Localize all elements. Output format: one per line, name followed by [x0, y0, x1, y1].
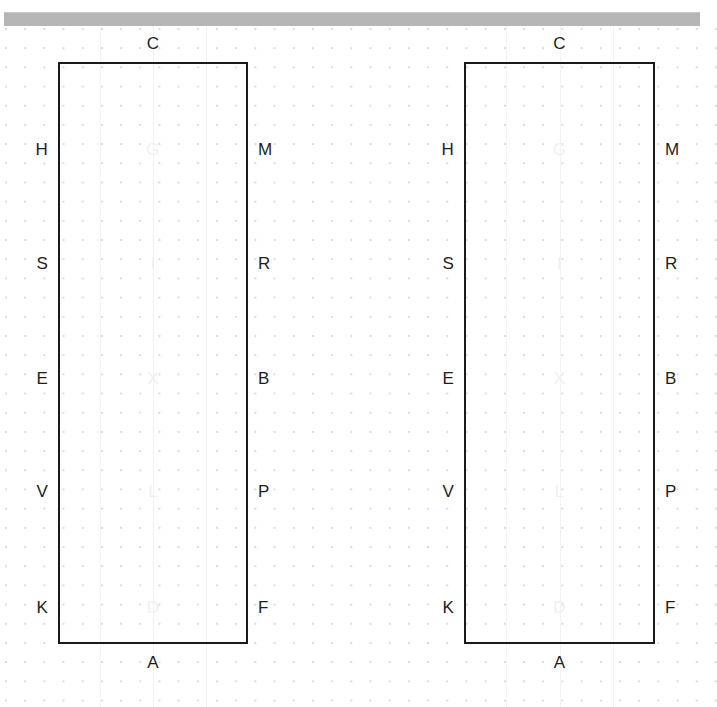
rectangle-left-inner-label-3: L — [148, 483, 158, 500]
rectangle-right-right-label-1: R — [665, 255, 677, 272]
rectangle-left-right-label-2: B — [258, 370, 270, 387]
rectangle-right-inner-label-3: L — [555, 483, 565, 500]
rectangle-left-right-label-4: F — [258, 599, 269, 616]
rectangle-left-inner-label-1: I — [151, 255, 156, 272]
rectangle-left-top-label: C — [147, 35, 159, 52]
chrome-top-edge — [0, 0, 717, 5]
rectangle-left-right-label-0: M — [258, 141, 272, 158]
rectangle-left-left-label-0: H — [36, 141, 48, 158]
rectangle-left-left-label-1: S — [36, 255, 48, 272]
rectangle-right-inner-label-4: D — [553, 599, 565, 616]
diagram-canvas[interactable]: CAHMGSRIEBXVPLKFDCAHMGSRIEBXVPLKFD — [0, 24, 717, 707]
rectangle-right-inner-label-2: X — [554, 370, 566, 387]
rectangle-right-inner-label-0: G — [553, 141, 566, 158]
rectangle-right-inner-label-1: I — [557, 255, 562, 272]
rectangle-right-right-label-3: P — [665, 483, 677, 500]
rectangle-right-bottom-label: A — [554, 654, 566, 671]
rectangle-right-right-label-0: M — [665, 141, 679, 158]
rectangle-left-left-label-3: V — [36, 483, 48, 500]
horizontal-scrollbar-thumb[interactable] — [4, 12, 700, 26]
horizontal-scrollbar-track[interactable] — [0, 6, 717, 19]
rectangle-left-inner-label-2: X — [147, 370, 159, 387]
rectangle-right-left-label-4: K — [442, 599, 454, 616]
rectangle-right-left-label-3: V — [442, 483, 454, 500]
rectangle-right-right-label-4: F — [665, 599, 676, 616]
rectangle-right-left-label-1: S — [442, 255, 454, 272]
rectangle-left-right-label-3: P — [258, 483, 270, 500]
rectangle-right-top-label: C — [553, 35, 565, 52]
rectangle-right-left-label-0: H — [442, 141, 454, 158]
rectangle-left-left-label-2: E — [36, 370, 48, 387]
rectangle-left-right-label-1: R — [258, 255, 270, 272]
rectangle-right-right-label-2: B — [665, 370, 677, 387]
rectangle-left-inner-label-4: D — [147, 599, 159, 616]
rectangle-right-left-label-2: E — [442, 370, 454, 387]
rectangle-left-left-label-4: K — [36, 599, 48, 616]
window-chrome — [0, 0, 717, 24]
rectangle-left-inner-label-0: G — [146, 141, 159, 158]
rectangle-left-bottom-label: A — [147, 654, 159, 671]
